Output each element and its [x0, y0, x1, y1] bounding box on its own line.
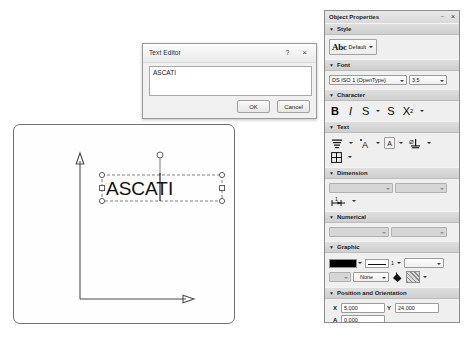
chevron-down-icon[interactable]	[348, 137, 354, 149]
italic-glyph: I	[349, 105, 352, 118]
section-header-text[interactable]: ▼ Text	[325, 121, 459, 133]
underline-button[interactable]: S	[385, 105, 396, 117]
line-cap-select[interactable]	[329, 272, 351, 282]
dimension-row2: 1	[329, 195, 455, 207]
y-coordinate-input[interactable]: 24,000	[395, 303, 439, 313]
italic-button[interactable]: I	[345, 105, 356, 117]
chevron-down-icon[interactable]	[396, 257, 402, 269]
chevron-down-icon: ▼	[329, 124, 334, 130]
chevron-down-icon[interactable]	[351, 195, 357, 207]
x-coordinate-input[interactable]: 5,000	[341, 303, 385, 313]
dimension-row1	[329, 183, 455, 193]
fill-color-button[interactable]	[391, 271, 404, 283]
paint-bucket-icon	[392, 272, 403, 283]
handle-middle-right	[220, 186, 225, 191]
drawing-canvas[interactable]: ASCATI	[13, 124, 235, 324]
text-anchor-icon: Ø	[409, 138, 421, 149]
style-selector-button[interactable]: Abc Default	[329, 39, 377, 55]
text-anchor-button[interactable]: Ø	[407, 137, 423, 149]
font-row: DS ISO 1 (OpenType) 3.5	[329, 75, 455, 85]
line-width-value: 1	[391, 260, 394, 266]
text-case-button[interactable]: A	[357, 137, 372, 149]
x-label: X	[333, 305, 339, 311]
section-header-style[interactable]: ▼ Style	[325, 23, 459, 35]
panel-title: Object Properties	[329, 14, 379, 20]
section-header-graphic[interactable]: ▼ Graphic	[325, 241, 459, 253]
text-toolbar-row1: A A Ø	[329, 137, 455, 149]
chevron-down-icon[interactable]	[347, 151, 353, 163]
section-content-dimension: 1	[325, 179, 459, 211]
numerical-precision-select[interactable]	[391, 227, 447, 237]
chevron-down-icon[interactable]	[375, 105, 381, 117]
position-row-angle: A 0,000	[329, 315, 455, 322]
text-align-icon	[331, 138, 343, 149]
graphic-row2: None	[329, 271, 455, 283]
section-header-character[interactable]: ▼ Character	[325, 89, 459, 101]
font-size-select[interactable]: 3.5	[409, 75, 447, 85]
handle-bottom-left	[99, 198, 104, 203]
superscript-exponent-glyph: 2	[410, 105, 413, 118]
numerical-row	[329, 227, 455, 237]
underline-glyph: S	[387, 105, 394, 118]
fill-style-select[interactable]: None	[353, 272, 389, 282]
text-editor-dialog: Text Editor ? × ASCATI OK Cancel	[142, 43, 317, 119]
text-table-button[interactable]	[329, 151, 344, 163]
chevron-down-icon[interactable]	[398, 137, 404, 149]
canvas-graphics: ASCATI	[14, 125, 236, 325]
minimize-icon[interactable]: –	[441, 13, 444, 19]
dialog-titlebar[interactable]: Text Editor ? ×	[143, 44, 316, 63]
chevron-down-icon[interactable]	[419, 105, 425, 117]
line-style-select[interactable]	[404, 258, 444, 268]
section-label-position: Position and Orientation	[337, 290, 407, 296]
panel-body: ▼ Style Abc Default ▼ Font DS ISO 1 (Ope…	[325, 23, 459, 322]
section-header-dimension[interactable]: ▼ Dimension	[325, 167, 459, 179]
text-align-button[interactable]	[329, 137, 345, 149]
handle-top-left	[99, 172, 104, 177]
dimension-unit-select[interactable]	[395, 183, 447, 193]
bold-button[interactable]: B	[329, 105, 341, 117]
dimension-style-select[interactable]	[329, 183, 393, 193]
strikethrough-button[interactable]: S	[360, 105, 371, 117]
chevron-down-icon: ▼	[329, 244, 334, 250]
font-family-select[interactable]: DS ISO 1 (OpenType)	[329, 75, 407, 85]
svg-text:Ø: Ø	[409, 139, 414, 145]
chevron-down-icon[interactable]	[422, 271, 428, 283]
section-content-position: X 5,000 Y 24,000 A 0,000	[325, 299, 459, 322]
section-content-text: A A Ø	[325, 133, 459, 167]
canvas-text-object[interactable]: ASCATI	[106, 178, 173, 199]
text-toolbar-row2	[329, 151, 455, 163]
chevron-down-icon: ▼	[329, 92, 334, 98]
section-header-position[interactable]: ▼ Position and Orientation	[325, 287, 459, 299]
help-icon[interactable]: ?	[281, 47, 294, 59]
chevron-down-icon[interactable]	[426, 137, 432, 149]
angle-label: A	[333, 317, 339, 322]
character-toolbar: B I S S X2	[329, 105, 455, 117]
close-icon[interactable]: ×	[451, 12, 455, 21]
dialog-title: Text Editor	[149, 49, 181, 56]
hatch-pattern-swatch[interactable]	[406, 271, 420, 283]
text-frame-button[interactable]: A	[384, 137, 395, 149]
chevron-down-icon[interactable]	[368, 41, 374, 53]
rotation-handle	[157, 152, 163, 158]
line-width-preview[interactable]	[365, 259, 389, 268]
angle-input[interactable]: 0,000	[341, 315, 385, 322]
numerical-format-select[interactable]	[329, 227, 389, 237]
dimension-tool-button[interactable]: 1	[329, 195, 349, 207]
chevron-down-icon[interactable]	[357, 257, 363, 269]
ok-button[interactable]: OK	[237, 100, 270, 113]
close-icon[interactable]: ×	[298, 47, 311, 59]
section-header-numerical[interactable]: ▼ Numerical	[325, 211, 459, 223]
superscript-button[interactable]: X2	[401, 105, 416, 117]
section-label-text: Text	[337, 124, 349, 130]
text-editor-input[interactable]: ASCATI	[149, 66, 312, 96]
cancel-button[interactable]: Cancel	[277, 100, 310, 113]
handle-top-right	[219, 172, 224, 177]
dimension-style-icon: 1	[331, 196, 347, 207]
section-label-graphic: Graphic	[337, 244, 360, 250]
color-swatch[interactable]	[329, 259, 357, 268]
chevron-down-icon[interactable]	[375, 137, 381, 149]
chevron-down-icon: ▼	[329, 26, 334, 32]
section-header-font[interactable]: ▼ Font	[325, 59, 459, 71]
line-color-picker[interactable]	[329, 257, 363, 269]
section-label-font: Font	[337, 62, 350, 68]
